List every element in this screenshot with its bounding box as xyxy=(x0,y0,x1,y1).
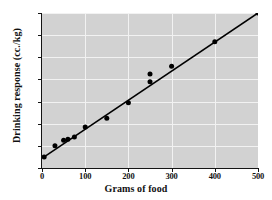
data-point xyxy=(104,116,109,121)
y-axis-tick-mark xyxy=(38,102,41,103)
x-axis-tick-label: 200 xyxy=(113,172,143,181)
data-point xyxy=(126,100,131,105)
x-axis-tick-mark xyxy=(85,169,86,172)
x-axis-tick-label: 100 xyxy=(70,172,100,181)
data-point xyxy=(212,39,217,44)
plot-area xyxy=(42,13,258,168)
x-axis-tick-mark xyxy=(128,169,129,172)
x-axis-tick-mark xyxy=(42,169,43,172)
data-point xyxy=(52,143,57,148)
y-axis-tick-mark xyxy=(38,13,41,14)
y-axis-tick-mark xyxy=(38,35,41,36)
y-axis-tick-mark xyxy=(38,79,41,80)
data-point xyxy=(83,125,88,130)
data-point xyxy=(65,137,70,142)
x-axis-tick-mark xyxy=(215,169,216,172)
x-axis-tick-label: 0 xyxy=(27,172,57,181)
x-axis-title: Grams of food xyxy=(0,183,272,194)
chart-figure: 010203040506070 0100200300400500 Grams o… xyxy=(0,0,272,200)
y-axis-title: Drinking response (cc./kg) xyxy=(11,6,22,166)
x-axis-tick-mark xyxy=(172,169,173,172)
data-point xyxy=(148,71,153,76)
data-point xyxy=(148,79,153,84)
y-axis-tick-mark xyxy=(38,168,41,169)
x-axis-tick-mark xyxy=(258,169,259,172)
y-axis-tick-mark xyxy=(38,124,41,125)
x-axis-tick-label: 400 xyxy=(200,172,230,181)
y-axis-line xyxy=(41,13,42,169)
y-axis-tick-mark xyxy=(38,146,41,147)
data-point xyxy=(72,135,77,140)
data-point xyxy=(61,138,66,143)
y-axis-tick-mark xyxy=(38,57,41,58)
x-axis-line xyxy=(41,168,259,169)
x-axis-tick-label: 500 xyxy=(243,172,272,181)
data-point xyxy=(169,64,174,69)
x-axis-tick-label: 300 xyxy=(157,172,187,181)
data-layer xyxy=(42,13,258,168)
